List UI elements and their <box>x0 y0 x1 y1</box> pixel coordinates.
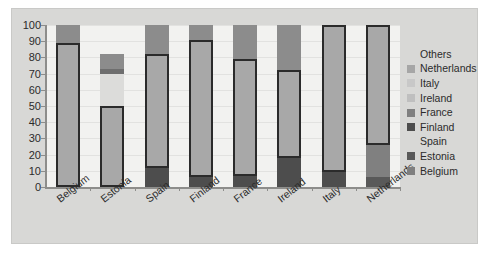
legend-swatch-icon <box>407 138 415 146</box>
y-axis-tick-label: 10 <box>17 166 41 176</box>
y-axis-tick-label: 60 <box>17 85 41 95</box>
x-axis-tick-mark <box>90 187 91 191</box>
chart-legend: OthersNetherlandsItalyIrelandFranceFinla… <box>407 47 489 178</box>
bar-highlighted[interactable] <box>189 40 213 178</box>
gridline <box>46 90 400 91</box>
legend-swatch-icon <box>407 65 415 73</box>
legend-item-label: Others <box>420 49 452 60</box>
bar-highlighted[interactable] <box>145 54 169 167</box>
y-axis-tick-label: 70 <box>17 69 41 79</box>
legend-swatch-icon <box>407 123 415 131</box>
bar-segment-filler <box>100 74 124 106</box>
bar-highlighted[interactable] <box>366 25 390 145</box>
x-axis-tick-mark <box>400 187 401 191</box>
gridline <box>46 25 400 26</box>
x-axis-tick-mark <box>312 187 313 191</box>
gridline <box>46 122 400 123</box>
bar-segment-upper <box>189 25 213 40</box>
y-axis-tick-mark <box>41 41 45 42</box>
x-axis-tick-mark <box>223 187 224 191</box>
y-axis-tick-mark <box>41 90 45 91</box>
y-axis-tick-label: 50 <box>17 101 41 111</box>
bar-segment-dark-band <box>100 69 124 74</box>
bar-highlighted[interactable] <box>233 59 257 176</box>
gridline <box>46 138 400 139</box>
y-axis-tick-label: 40 <box>17 117 41 127</box>
plot-area <box>46 25 400 187</box>
y-axis-tick-mark <box>41 25 45 26</box>
legend-item-label: France <box>420 107 453 118</box>
legend-item[interactable]: Ireland <box>407 91 489 106</box>
legend-item-label: Netherlands <box>420 63 477 74</box>
bar-segment-upper <box>277 25 301 70</box>
x-axis-tick-mark <box>179 187 180 191</box>
y-axis-tick-label: 0 <box>17 182 41 192</box>
legend-swatch-icon <box>407 94 415 102</box>
gridline <box>46 106 400 107</box>
legend-item[interactable]: Others <box>407 47 489 62</box>
bar-highlighted[interactable] <box>100 106 124 187</box>
legend-item[interactable]: Spain <box>407 135 489 150</box>
y-axis-tick-mark <box>41 74 45 75</box>
x-axis-tick-mark <box>135 187 136 191</box>
chart-panel: 0102030405060708090100 BelgiumEstoniaSpa… <box>11 8 478 244</box>
legend-item-label: Belgium <box>420 166 458 177</box>
gridline <box>46 41 400 42</box>
bar-highlighted[interactable] <box>56 43 80 187</box>
bar-segment-upper <box>233 25 257 59</box>
gridline <box>46 155 400 156</box>
bar-highlighted[interactable] <box>322 25 346 172</box>
legend-item[interactable]: Italy <box>407 76 489 91</box>
gridline <box>46 74 400 75</box>
legend-item-label: Estonia <box>420 151 455 162</box>
y-axis-tick-mark <box>41 122 45 123</box>
legend-item-label: Finland <box>420 122 454 133</box>
y-axis-tick-mark <box>41 155 45 156</box>
bar-segment-upper <box>56 25 80 43</box>
legend-swatch-icon <box>407 167 415 175</box>
legend-swatch-icon <box>407 109 415 117</box>
y-axis-tick-label: 80 <box>17 52 41 62</box>
y-axis-tick-mark <box>41 138 45 139</box>
bar-segment-mid <box>366 145 390 177</box>
y-axis-tick-mark <box>41 187 45 188</box>
y-axis-line <box>45 25 47 188</box>
legend-item[interactable]: France <box>407 105 489 120</box>
legend-item-label: Spain <box>420 136 447 147</box>
legend-item-label: Ireland <box>420 93 452 104</box>
y-axis-tick-label: 30 <box>17 133 41 143</box>
gridline <box>46 171 400 172</box>
legend-item[interactable]: Finland <box>407 120 489 135</box>
legend-swatch-icon <box>407 79 415 87</box>
x-axis-tick-mark <box>356 187 357 191</box>
y-axis-tick-label: 100 <box>17 20 41 30</box>
legend-swatch-icon <box>407 50 415 58</box>
legend-swatch-icon <box>407 152 415 160</box>
legend-item[interactable]: Estonia <box>407 149 489 164</box>
x-axis-tick-mark <box>267 187 268 191</box>
y-axis-tick-mark <box>41 106 45 107</box>
y-axis: 0102030405060708090100 <box>12 9 41 245</box>
legend-item[interactable]: Netherlands <box>407 62 489 77</box>
bar-segment-upper <box>145 25 169 54</box>
legend-item[interactable]: Belgium <box>407 164 489 179</box>
gridline <box>46 57 400 58</box>
bar-highlighted[interactable] <box>277 70 301 157</box>
y-axis-tick-label: 90 <box>17 36 41 46</box>
y-axis-tick-label: 20 <box>17 150 41 160</box>
legend-item-label: Italy <box>420 78 439 89</box>
y-axis-tick-mark <box>41 57 45 58</box>
y-axis-tick-mark <box>41 171 45 172</box>
